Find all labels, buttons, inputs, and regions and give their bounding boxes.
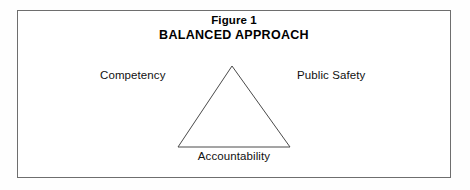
vertex-label-competency-text: Competency <box>100 69 166 81</box>
figure-title: Figure 1 BALANCED APPROACH <box>17 14 451 42</box>
figure-canvas: Figure 1 BALANCED APPROACH Competency Pu… <box>0 0 470 190</box>
vertex-label-competency: Competency <box>100 69 166 81</box>
vertex-label-public-safety-text: Public Safety <box>297 69 365 81</box>
figure-title-line-1: Figure 1 <box>17 14 451 27</box>
vertex-label-accountability: Accountability <box>0 150 470 162</box>
figure-title-line-2: BALANCED APPROACH <box>17 29 451 42</box>
vertex-label-public-safety: Public Safety <box>297 69 365 81</box>
vertex-label-accountability-text: Accountability <box>198 150 270 162</box>
